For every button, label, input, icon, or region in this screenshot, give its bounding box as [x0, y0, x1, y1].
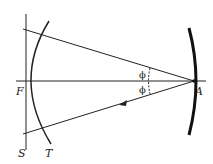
ray-lower [23, 81, 194, 134]
label-phi-lower: ϕ [139, 84, 146, 95]
label-s: S [18, 147, 26, 160]
ray-upper [23, 29, 194, 81]
label-f: F [15, 85, 24, 98]
label-a: A [194, 85, 203, 98]
label-phi-upper: ϕ [139, 69, 146, 80]
arrow-icon [119, 100, 127, 106]
optics-diagram: F A S T ϕ ϕ [0, 0, 213, 164]
focal-surface-t [31, 21, 51, 144]
label-t: T [45, 147, 54, 160]
point-a [192, 79, 196, 83]
